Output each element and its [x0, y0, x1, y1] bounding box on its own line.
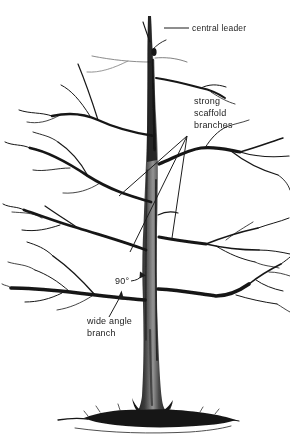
tree-body — [2, 16, 290, 433]
tree-diagram-figure: central leader strong scaffold branches … — [0, 0, 290, 448]
wide-angle-label-line1: wide angle — [87, 315, 132, 327]
scaffold-label-line2: scaffold — [194, 107, 233, 119]
scaffold-label-line3: branches — [194, 119, 233, 131]
scaffold-branches-label: strong scaffold branches — [194, 95, 233, 131]
central-leader-label: central leader — [192, 22, 246, 34]
wide-angle-branch-label: wide angle branch — [87, 315, 132, 339]
wide-angle-label-line2: branch — [87, 327, 132, 339]
tree-illustration — [0, 0, 290, 448]
angle-90-label: 90° — [115, 275, 129, 287]
wide-angle-arrow — [109, 291, 124, 318]
scaffold-label-line1: strong — [194, 95, 233, 107]
